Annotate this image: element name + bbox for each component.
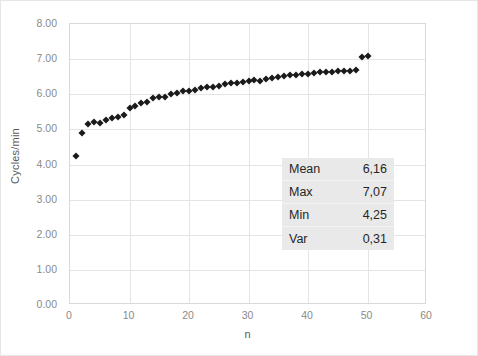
statistics-row: Min4,25 xyxy=(282,204,394,227)
gridline-vertical xyxy=(130,24,131,303)
statistics-value: 7,07 xyxy=(363,185,387,199)
statistics-label: Mean xyxy=(289,162,320,176)
x-axis-tick-label: 30 xyxy=(228,309,268,321)
statistics-table: Mean6,16Max7,07Min4,25Var0,31 xyxy=(282,158,394,250)
gridline-horizontal xyxy=(70,59,425,60)
x-axis-title: n xyxy=(69,328,426,340)
y-axis-tick-label: 6.00 xyxy=(17,87,57,99)
y-axis-tick-label: 1.00 xyxy=(17,263,57,275)
x-axis-tick-label: 0 xyxy=(49,309,89,321)
data-point xyxy=(144,98,151,105)
y-axis-tick-label: 3.00 xyxy=(17,193,57,205)
x-axis-tick-label: 20 xyxy=(168,309,208,321)
data-point xyxy=(72,152,79,159)
data-point xyxy=(364,52,371,59)
x-axis-tick-label: 60 xyxy=(406,309,446,321)
statistics-row: Max7,07 xyxy=(282,181,394,204)
y-axis-tick-label: 4.00 xyxy=(17,158,57,170)
statistics-value: 6,16 xyxy=(363,162,387,176)
x-axis-tick-label: 40 xyxy=(287,309,327,321)
chart-figure: Cycles/min 0.001.002.003.004.005.006.007… xyxy=(0,0,478,356)
data-point xyxy=(346,67,353,74)
y-axis-tick-label: 2.00 xyxy=(17,228,57,240)
statistics-value: 4,25 xyxy=(363,208,387,222)
statistics-label: Max xyxy=(289,185,313,199)
y-axis-title-text: Cycles/min xyxy=(9,128,21,184)
gridline-horizontal xyxy=(70,129,425,130)
data-point xyxy=(78,129,85,136)
statistics-value: 0,31 xyxy=(363,232,387,246)
y-axis-tick-label: 7.00 xyxy=(17,52,57,64)
data-point xyxy=(233,79,240,86)
gridline-vertical xyxy=(189,24,190,303)
y-axis-tick-label: 8.00 xyxy=(17,17,57,29)
data-point xyxy=(352,66,359,73)
gridline-horizontal xyxy=(70,270,425,271)
y-axis-tick-label: 5.00 xyxy=(17,122,57,134)
statistics-label: Min xyxy=(289,208,309,222)
gridline-vertical xyxy=(249,24,250,303)
x-axis-tick-label: 10 xyxy=(109,309,149,321)
statistics-label: Var xyxy=(289,232,308,246)
gridline-horizontal xyxy=(70,94,425,95)
statistics-row: Mean6,16 xyxy=(282,158,394,181)
statistics-row: Var0,31 xyxy=(282,227,394,250)
x-axis-tick-label: 50 xyxy=(347,309,387,321)
